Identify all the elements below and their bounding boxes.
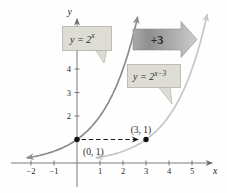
curve1-callout: y = 2x [63,27,112,64]
figure-exponential-shift: x y −2−112345 2345 (0, 1)(3, 1) +3 y = 2… [0,0,227,193]
curve1-callout-pointer [95,49,107,63]
curve1-equation-exponent: x [90,31,95,40]
y-axis-label: y [67,6,73,17]
curve2-callout: y = 2x−3 [128,65,181,105]
shift-block-arrow-label: +3 [151,34,164,46]
curve2-equation-base: y = 2 [132,71,154,82]
shift-block-arrow-shape [133,22,197,58]
curve2-equation-exponent: x−3 [153,69,166,78]
data-point-label: (3, 1) [131,125,152,136]
y-tick-label: 3 [67,88,71,98]
y-ticks: 2345 [67,41,80,140]
x-tick-label: −1 [49,166,58,176]
points-and-shift: (0, 1)(3, 1) [74,125,151,158]
x-tick-label: 3 [144,166,148,176]
x-tick-label: 5 [190,166,194,176]
data-point [143,137,148,142]
y-tick-label: 2 [67,111,71,121]
shift-block-arrow: +3 [133,22,197,58]
y-tick-label: 4 [67,64,72,74]
curve1-equation-base: y = 2 [69,34,91,45]
x-tick-label: 1 [98,166,102,176]
x-axis-label: x [212,165,218,176]
x-tick-label: 2 [121,166,125,176]
data-point [74,137,79,142]
graph-canvas: x y −2−112345 2345 (0, 1)(3, 1) +3 y = 2… [0,0,227,193]
x-tick-label: 4 [167,166,172,176]
curve2-callout-pointer [158,87,172,105]
data-point-label: (0, 1) [83,147,104,158]
x-tick-label: −2 [26,166,35,176]
